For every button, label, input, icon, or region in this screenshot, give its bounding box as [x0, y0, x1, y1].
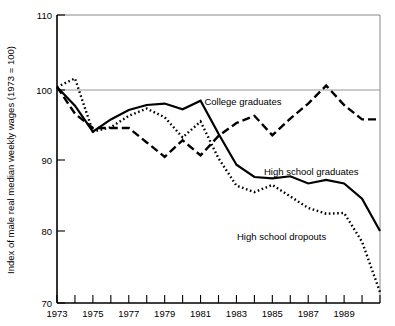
y-axis-title: Index of male real median weekly wages (… [5, 46, 16, 274]
y-axis-tick-labels: 110 100 90 80 70 [36, 10, 52, 309]
y-axis-ticks [57, 15, 65, 303]
plot-frame [57, 15, 380, 303]
x-tick-label-1989: 1989 [334, 308, 355, 319]
y-tick-label-110: 110 [37, 10, 52, 21]
x-axis-tick-labels: 197319751977197919811983198519871989 [46, 308, 354, 319]
y-tick-label-70: 70 [41, 298, 52, 309]
series-line-high-school-dropouts [57, 78, 380, 292]
x-tick-label-1981: 1981 [190, 308, 211, 319]
y-tick-label-100: 100 [36, 85, 52, 96]
x-tick-label-1975: 1975 [82, 308, 103, 319]
x-tick-label-1985: 1985 [262, 308, 283, 319]
x-tick-label-1977: 1977 [118, 308, 139, 319]
line-chart: 110 100 90 80 70 19731975197719791981198… [0, 0, 395, 326]
y-tick-label-80: 80 [41, 226, 52, 237]
x-tick-label-1979: 1979 [154, 308, 175, 319]
series-label-high-school-graduates: High school graduates [264, 166, 359, 177]
series-line-high-school-graduates [57, 87, 380, 231]
y-tick-label-90: 90 [41, 155, 52, 166]
x-tick-label-1973: 1973 [46, 308, 67, 319]
x-tick-label-1987: 1987 [298, 308, 319, 319]
series-label-high-school-dropouts: High school dropouts [237, 231, 326, 242]
x-tick-label-1983: 1983 [226, 308, 247, 319]
series-label-college-graduates: College graduates [204, 96, 281, 107]
x-axis-ticks [57, 295, 380, 303]
chart-page: 110 100 90 80 70 19731975197719791981198… [0, 0, 395, 326]
series-group [57, 78, 380, 292]
